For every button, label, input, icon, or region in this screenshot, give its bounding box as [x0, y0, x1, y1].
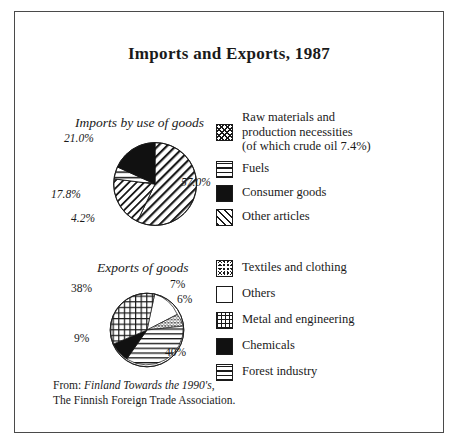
exports-pie-chart — [107, 290, 187, 370]
swatch-solid-black-icon — [216, 338, 233, 355]
legend-label-other-articles: Other articles — [242, 209, 310, 224]
legend-item-others: Others — [216, 286, 354, 303]
source-prefix: From: — [53, 379, 81, 391]
legend-label-chemicals: Chemicals — [242, 338, 295, 353]
exports-label-7: 7% — [170, 278, 185, 290]
imports-chart-subtitle: Imports by use of goods — [75, 115, 204, 131]
legend-label-metal-engineering: Metal and engineering — [242, 312, 354, 327]
swatch-stipple-dots-icon — [216, 260, 233, 277]
exports-legend: Textiles and clothing Others Metal and e… — [216, 260, 354, 390]
imports-label-21: 21.0% — [64, 132, 94, 144]
swatch-white-icon — [216, 286, 233, 303]
legend-label-textiles: Textiles and clothing — [242, 260, 347, 275]
legend-label-consumer-goods: Consumer goods — [242, 185, 326, 200]
source-line-1: From: Finland Towards the 1990's, — [53, 378, 235, 393]
imports-legend: Raw materials and production necessities… — [216, 110, 371, 233]
legend-label-raw-materials: Raw materials and production necessities… — [242, 110, 371, 154]
legend-item-forest-industry: Forest industry — [216, 364, 354, 381]
legend-item-textiles: Textiles and clothing — [216, 260, 354, 277]
figure-frame: Imports and Exports, 1987 Imports by use… — [14, 11, 444, 433]
legend-item-metal-engineering: Metal and engineering — [216, 312, 354, 329]
imports-label-57: 57.0% — [181, 176, 211, 188]
legend-item-fuels: Fuels — [216, 161, 371, 178]
exports-label-40: 40% — [165, 346, 186, 358]
imports-label-4-2: 4.2% — [71, 212, 95, 224]
exports-label-38: 38% — [71, 282, 92, 294]
legend-item-consumer-goods: Consumer goods — [216, 185, 371, 202]
exports-chart-subtitle: Exports of goods — [97, 260, 189, 276]
swatch-cross-hatch-icon — [216, 124, 233, 141]
legend-label-forest-industry: Forest industry — [242, 364, 317, 379]
legend-item-raw-materials: Raw materials and production necessities… — [216, 110, 371, 154]
source-line-2: The Finnish Foreign Trade Association. — [53, 393, 235, 408]
legend-label-others: Others — [242, 286, 275, 301]
swatch-grid-icon — [216, 312, 233, 329]
legend-item-chemicals: Chemicals — [216, 338, 354, 355]
legend-item-other-articles: Other articles — [216, 209, 371, 226]
swatch-solid-black-icon — [216, 185, 233, 202]
source-note: From: Finland Towards the 1990's, The Fi… — [53, 378, 235, 407]
source-comma: , — [212, 379, 215, 391]
legend-label-fuels: Fuels — [242, 161, 269, 176]
exports-label-6: 6% — [177, 293, 192, 305]
swatch-horizontal-lines-icon — [216, 161, 233, 178]
source-title: Finland Towards the 1990's — [84, 379, 212, 391]
imports-label-17-8: 17.8% — [51, 188, 81, 200]
swatch-diagonal-hatch-icon — [216, 209, 233, 226]
exports-label-9: 9% — [74, 332, 89, 344]
page-title: Imports and Exports, 1987 — [15, 44, 443, 64]
